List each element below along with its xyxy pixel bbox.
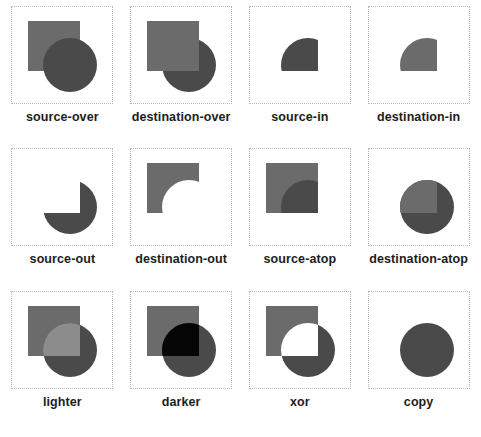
label-source-out: source-out (30, 253, 96, 266)
composite-canvas (131, 292, 231, 388)
canvas-source-out (11, 148, 113, 246)
label-lighter: lighter (43, 396, 82, 409)
composite-canvas (12, 292, 112, 388)
composite-cell-source-in: source-in (241, 6, 360, 148)
canvas-copy (368, 291, 470, 389)
canvas-darker (130, 291, 232, 389)
label-destination-in: destination-in (377, 111, 460, 124)
composite-cell-destination-over: destination-over (122, 6, 241, 148)
source-circle (281, 180, 335, 234)
composite-cell-copy: copy (359, 291, 478, 433)
destination-square (147, 21, 199, 71)
label-darker: darker (162, 396, 201, 409)
source-circle (281, 38, 335, 92)
label-destination-over: destination-over (132, 111, 231, 124)
composite-cell-source-over: source-over (3, 6, 122, 148)
composite-cell-lighter: lighter (3, 291, 122, 433)
composite-operations-grid: source-overdestination-oversource-indest… (0, 0, 481, 437)
destination-square (147, 163, 199, 213)
canvas-source-over (11, 6, 113, 104)
composite-canvas (12, 7, 112, 103)
composite-cell-destination-atop: destination-atop (359, 148, 478, 290)
composite-canvas (250, 292, 350, 388)
composite-cell-xor: xor (241, 291, 360, 433)
composite-cell-darker: darker (122, 291, 241, 433)
composite-canvas (131, 149, 231, 245)
composite-cell-destination-in: destination-in (359, 6, 478, 148)
composite-canvas (250, 7, 350, 103)
destination-square (385, 163, 437, 213)
destination-square (385, 21, 437, 71)
composite-canvas (369, 149, 469, 245)
label-source-over: source-over (26, 111, 99, 124)
composite-canvas (369, 7, 469, 103)
label-source-in: source-in (271, 111, 328, 124)
composite-canvas (250, 149, 350, 245)
source-circle (400, 323, 454, 377)
canvas-source-in (249, 6, 351, 104)
composite-canvas (131, 7, 231, 103)
label-destination-out: destination-out (135, 253, 227, 266)
composite-canvas (12, 149, 112, 245)
composite-cell-source-atop: source-atop (241, 148, 360, 290)
canvas-destination-atop (368, 148, 470, 246)
source-circle (43, 38, 97, 92)
source-circle (281, 323, 335, 377)
label-destination-atop: destination-atop (369, 253, 468, 266)
canvas-destination-over (130, 6, 232, 104)
label-xor: xor (290, 396, 310, 409)
source-circle (43, 180, 97, 234)
composite-canvas (369, 292, 469, 388)
label-copy: copy (404, 396, 434, 409)
canvas-source-atop (249, 148, 351, 246)
canvas-xor (249, 291, 351, 389)
composite-cell-destination-out: destination-out (122, 148, 241, 290)
label-source-atop: source-atop (264, 253, 337, 266)
canvas-lighter (11, 291, 113, 389)
canvas-destination-out (130, 148, 232, 246)
canvas-destination-in (368, 6, 470, 104)
composite-cell-source-out: source-out (3, 148, 122, 290)
